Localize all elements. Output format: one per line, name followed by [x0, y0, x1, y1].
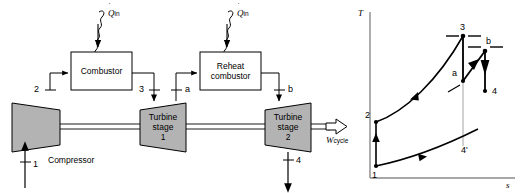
heat-input-1-label: ̇ Qin [108, 9, 120, 18]
heat-input-2-label: ̇ Qin [237, 9, 249, 18]
ts-state-label-4: 4 [492, 87, 497, 96]
compressor-body [12, 103, 60, 152]
ts-axis-label-T: T [358, 8, 363, 18]
isobar-tick-a-left [448, 85, 460, 92]
pipe-reheat-to-turbine2 [261, 73, 279, 101]
arrow-a-to-b [468, 59, 479, 70]
turbine-stage-1-label: Turbine stage 1 [140, 112, 186, 142]
arrow-2-to-3 [410, 92, 419, 100]
ts-state-label-3: 3 [460, 23, 465, 32]
ts-point-3 [461, 34, 466, 39]
heat-input-1-group [95, 11, 104, 57]
arrow-b-to-4 [481, 60, 490, 75]
ts-point-2 [374, 120, 378, 124]
arrow-1-to-2 [372, 133, 380, 142]
ts-state-label-1: 1 [372, 171, 377, 180]
turbine-2-label-line2: stage [278, 122, 299, 132]
reheat-combustor-label: Reheat combustor [200, 61, 261, 81]
heat-input-2-group [224, 11, 233, 57]
schematic-state-label-4: 4 [296, 156, 301, 165]
q-symbol-1: Q [108, 8, 115, 18]
q-subscript-2: in [244, 10, 249, 17]
ts-state-label-b: b [486, 37, 491, 46]
schematic-state-label-1: 1 [33, 160, 38, 169]
ts-point-a [461, 79, 465, 83]
arrow-4-to-1 [418, 154, 427, 161]
ts-point-4 [483, 89, 487, 93]
ts-state-label-a: a [452, 69, 457, 78]
turbine-stage-2-label: Turbine stage 2 [265, 112, 311, 142]
compressor-label: Compressor [48, 155, 94, 165]
w-subscript: cycle [334, 137, 349, 144]
schematic-state-label-b: b [288, 85, 293, 94]
work-cycle-label: ̇ Wcycle [326, 136, 348, 145]
ts-point-b [483, 49, 488, 54]
heat-squiggle-icon [95, 11, 104, 57]
turbine-1-label-line3: 1 [161, 132, 166, 142]
turbine-2-label-line3: 2 [286, 132, 291, 142]
heat-squiggle-icon [224, 11, 233, 57]
process-curve-2-to-3-upper-isobar [376, 36, 463, 122]
work-output-arrow [326, 119, 347, 134]
ts-state-label-4-prime: 4' [461, 146, 468, 155]
pipe-2-to-combustor [50, 73, 68, 90]
q-symbol-2: Q [237, 8, 244, 18]
turbine-2-label-line1: Turbine [274, 112, 303, 122]
schematic-state-label-3: 3 [139, 85, 144, 94]
ts-state-label-2: 2 [365, 111, 370, 120]
turbine-1-label-line1: Turbine [149, 112, 178, 122]
turbine-1-label-line2: stage [153, 122, 174, 132]
ts-axis-label-s: s [506, 180, 510, 190]
q-subscript-1: in [115, 10, 120, 17]
ts-point-1 [374, 164, 378, 168]
schematic-state-label-2: 2 [34, 85, 39, 94]
w-symbol: W [326, 135, 334, 145]
reheat-combustor-label-line1: Reheat [217, 61, 244, 71]
combustor-label: Combustor [71, 66, 132, 76]
schematic-state-label-a: a [185, 85, 190, 94]
reheat-combustor-label-line2: combustor [211, 71, 251, 81]
